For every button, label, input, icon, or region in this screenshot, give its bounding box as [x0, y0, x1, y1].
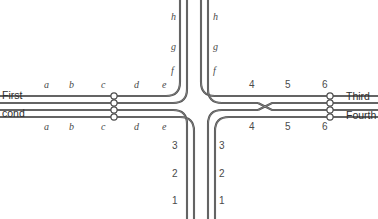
- segment-label-right-top-4: 4: [249, 80, 255, 90]
- left-terminal-group[interactable]: [111, 93, 117, 120]
- terminal-circle[interactable]: [111, 93, 117, 99]
- right-terminal-group[interactable]: [327, 93, 333, 120]
- segment-label-right-bottom-5: 5: [285, 122, 291, 132]
- segment-label-left-bottom-a: a: [44, 122, 49, 132]
- conductor-path-bottom-outer-right: [215, 117, 378, 219]
- right-conductor-label-fourth: Fourth: [346, 110, 376, 121]
- terminal-circle[interactable]: [327, 107, 333, 113]
- terminal-circle[interactable]: [327, 100, 333, 106]
- segment-label-top-right-g: g: [213, 42, 218, 52]
- segment-label-right-top-6: 6: [322, 80, 328, 90]
- left-conductor-label-line1: First: [2, 90, 22, 101]
- segment-label-left-bottom-c: c: [101, 122, 105, 132]
- segment-label-bottom-left-2: 2: [172, 169, 178, 179]
- segment-label-bottom-left-1: 1: [172, 196, 178, 206]
- segment-label-left-top-a: a: [44, 80, 49, 90]
- terminal-circle[interactable]: [111, 107, 117, 113]
- wiring-svg: .cond{fill:none;stroke:#4d4d4d;stroke-wi…: [0, 0, 378, 219]
- segment-label-bottom-right-2: 2: [219, 169, 225, 179]
- segment-label-top-right-f: f: [213, 66, 216, 76]
- segment-label-left-bottom-e: e: [162, 122, 166, 132]
- terminal-circle[interactable]: [111, 114, 117, 120]
- segment-label-left-top-b: b: [69, 80, 74, 90]
- segment-label-left-top-c: c: [101, 80, 105, 90]
- segment-label-right-bottom-6: 6: [322, 122, 328, 132]
- terminal-circle[interactable]: [327, 93, 333, 99]
- segment-label-left-top-e: e: [162, 80, 166, 90]
- conductor-path-top-outer-left: [0, 0, 180, 96]
- diagram-canvas: .cond{fill:none;stroke:#4d4d4d;stroke-wi…: [0, 0, 378, 219]
- segment-label-top-right-h: h: [213, 12, 218, 22]
- segment-label-left-bottom-d: d: [134, 122, 139, 132]
- segment-label-top-left-g: g: [171, 42, 176, 52]
- left-conductor-label-line2: cond: [2, 108, 25, 119]
- segment-label-top-left-f: f: [171, 66, 174, 76]
- conductor-path-bottom-inner-left: [0, 110, 187, 219]
- conductor-path-bottom-outer-left: [0, 117, 194, 219]
- segment-label-bottom-left-3: 3: [172, 141, 178, 151]
- segment-label-bottom-right-3: 3: [219, 141, 225, 151]
- conductor-path-top-inner-left: [0, 0, 187, 103]
- segment-label-top-left-h: h: [171, 12, 176, 22]
- segment-label-right-top-5: 5: [285, 80, 291, 90]
- terminal-circle[interactable]: [111, 100, 117, 106]
- terminal-circle[interactable]: [327, 114, 333, 120]
- segment-label-left-bottom-b: b: [69, 122, 74, 132]
- right-conductor-label-third: Third: [346, 91, 370, 102]
- segment-label-bottom-right-1: 1: [219, 196, 225, 206]
- segment-label-right-bottom-4: 4: [249, 122, 255, 132]
- segment-label-left-top-d: d: [134, 80, 139, 90]
